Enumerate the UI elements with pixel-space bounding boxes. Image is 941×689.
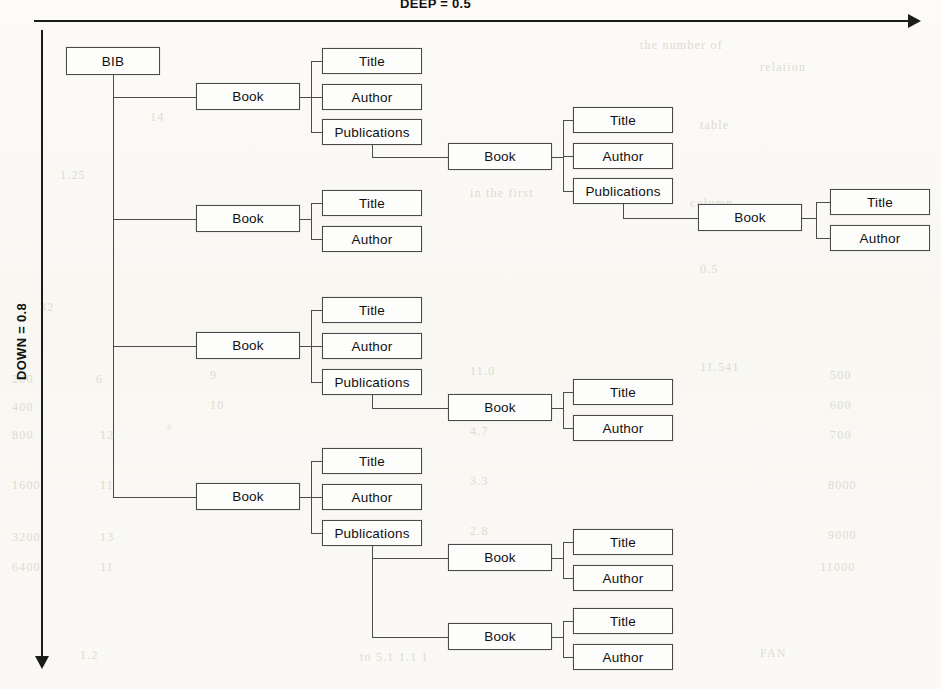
tree-node-author[interactable]: Author (573, 415, 673, 441)
ghost-text: relation (760, 60, 806, 75)
tree-node-book[interactable]: Book (698, 204, 802, 231)
tree-edge-segment (563, 657, 573, 658)
tree-edge-segment (300, 97, 311, 98)
tree-node-publications[interactable]: Publications (322, 520, 422, 546)
ghost-text: 3.3 (470, 474, 489, 489)
tree-node-title[interactable]: Title (573, 529, 673, 555)
tree-node-book[interactable]: Book (448, 544, 552, 571)
tree-node-label: Publications (334, 125, 409, 140)
ghost-text: 600 (830, 398, 852, 413)
tree-node-author[interactable]: Author (322, 226, 422, 252)
ghost-text: 11.0 (470, 364, 495, 379)
tree-node-book[interactable]: Book (196, 205, 300, 232)
tree-edge-segment (311, 533, 322, 534)
tree-edge-segment (563, 120, 573, 121)
tree-node-title[interactable]: Title (573, 379, 673, 405)
tree-node-author[interactable]: Author (322, 84, 422, 110)
tree-node-book[interactable]: Book (196, 332, 300, 359)
tree-node-author[interactable]: Author (830, 225, 930, 251)
tree-edge-segment (563, 621, 573, 622)
tree-edge-segment (113, 75, 114, 497)
tree-edge-segment (372, 558, 448, 559)
ghost-text: 1.25 (60, 168, 86, 183)
tree-node-bib[interactable]: BIB (66, 47, 160, 75)
tree-node-publications[interactable]: Publications (322, 369, 422, 395)
tree-node-label: BIB (102, 54, 124, 69)
tree-edge-segment (311, 497, 322, 498)
tree-edge-segment (311, 461, 322, 462)
tree-node-author[interactable]: Author (573, 143, 673, 169)
ghost-text: 9 (210, 368, 217, 383)
tree-node-label: Author (603, 149, 644, 164)
tree-node-label: Author (352, 339, 393, 354)
ghost-text: 11 (100, 478, 114, 493)
deep-axis-line (34, 20, 910, 22)
tree-edge-segment (563, 621, 564, 657)
tree-node-author[interactable]: Author (322, 333, 422, 359)
tree-node-label: Author (352, 490, 393, 505)
tree-node-title[interactable]: Title (322, 190, 422, 216)
ghost-text: 0.5 (700, 262, 719, 277)
tree-node-title[interactable]: Title (322, 48, 422, 74)
tree-node-title[interactable]: Title (322, 448, 422, 474)
tree-node-title[interactable]: Title (322, 297, 422, 323)
tree-node-label: Book (484, 400, 516, 415)
tree-edge-segment (563, 392, 564, 428)
tree-node-label: Title (610, 614, 636, 629)
tree-node-label: Book (232, 489, 264, 504)
tree-node-label: Title (359, 196, 385, 211)
tree-node-author[interactable]: Author (573, 565, 673, 591)
tree-node-publications[interactable]: Publications (322, 119, 422, 145)
ghost-text: FAN (760, 646, 787, 661)
tree-edge-segment (372, 408, 448, 409)
tree-edge-segment (563, 578, 573, 579)
tree-node-label: Book (232, 211, 264, 226)
tree-edge-segment (300, 497, 311, 498)
tree-node-author[interactable]: Author (322, 484, 422, 510)
ghost-text: to 5.1 1.1 1 (360, 650, 429, 665)
ghost-text: 1.2 (80, 648, 99, 663)
tree-node-book[interactable]: Book (196, 83, 300, 110)
tree-edge-segment (802, 218, 816, 219)
ghost-text: 13 (100, 530, 114, 545)
ghost-text: 11.541 (700, 360, 740, 375)
tree-edge-segment (552, 408, 563, 409)
tree-edge-segment (623, 204, 624, 218)
tree-edge-segment (816, 238, 830, 239)
tree-node-publications[interactable]: Publications (573, 178, 673, 204)
tree-node-label: Author (603, 650, 644, 665)
down-axis-line (41, 30, 43, 658)
tree-node-label: Author (860, 231, 901, 246)
tree-edge-segment (816, 202, 830, 203)
tree-edge-segment (552, 157, 563, 158)
tree-edge-segment (311, 239, 322, 240)
tree-node-title[interactable]: Title (830, 189, 930, 215)
tree-node-author[interactable]: Author (573, 644, 673, 670)
tree-edge-segment (300, 219, 311, 220)
tree-edge-segment (372, 395, 373, 408)
ghost-text: 800 (12, 428, 34, 443)
tree-node-title[interactable]: Title (573, 107, 673, 133)
tree-node-title[interactable]: Title (573, 608, 673, 634)
tree-node-book[interactable]: Book (448, 394, 552, 421)
tree-node-label: Title (610, 385, 636, 400)
down-axis-label: DOWN = 0.8 (14, 303, 29, 380)
ghost-text: 3200 (12, 530, 41, 545)
tree-node-book[interactable]: Book (448, 623, 552, 650)
tree-edge-segment (552, 637, 563, 638)
tree-edge-segment (311, 203, 312, 239)
deep-axis-arrowhead (908, 14, 921, 28)
tree-node-label: Book (232, 338, 264, 353)
tree-edge-segment (311, 310, 322, 311)
ghost-text: 6 (96, 372, 103, 387)
tree-edge-segment (623, 218, 698, 219)
tree-edge-segment (113, 497, 196, 498)
diagram-page: the number ofrelation14table1.25in the f… (0, 0, 941, 689)
tree-edge-segment (311, 61, 322, 62)
tree-node-book[interactable]: Book (448, 143, 552, 170)
ghost-text: 500 (830, 368, 852, 383)
ghost-text: table (700, 118, 729, 133)
tree-edge-segment (113, 219, 196, 220)
ghost-text: the number of (640, 38, 723, 53)
tree-node-book[interactable]: Book (196, 483, 300, 510)
